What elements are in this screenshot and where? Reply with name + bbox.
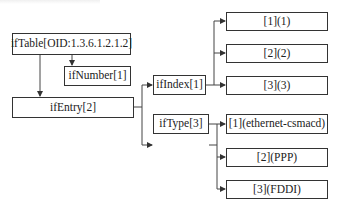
node-ifnumber: ifNumber[1] (64, 66, 131, 86)
node-index-value-1: [1](1) (226, 12, 328, 31)
node-type-value-1: [1](ethernet-csmacd) (226, 114, 328, 134)
node-index-value-1-label: [1](1) (264, 16, 291, 28)
node-ifnumber-label: ifNumber[1] (68, 70, 126, 82)
node-iftable-label: ifTable[OID:1.3.6.1.2.1.2] (11, 38, 132, 50)
node-type-value-3-label: [3](FDDI) (253, 184, 301, 196)
node-index-value-3: [3](3) (226, 76, 328, 95)
node-ifindex-label: ifIndex[1] (156, 79, 203, 91)
node-type-value-1-label: [1](ethernet-csmacd) (229, 118, 325, 130)
node-type-value-2: [2](PPP) (226, 148, 328, 167)
node-iftype-label: ifType[3] (159, 118, 202, 130)
node-index-value-3-label: [3](3) (264, 80, 291, 92)
node-iftable: ifTable[OID:1.3.6.1.2.1.2] (12, 33, 131, 55)
node-type-value-3: [3](FDDI) (226, 180, 328, 199)
node-ifentry-label: ifEntry[2] (50, 102, 96, 114)
node-iftype: ifType[3] (153, 114, 209, 134)
node-ifentry: ifEntry[2] (12, 97, 134, 118)
node-ifindex: ifIndex[1] (153, 75, 206, 95)
node-type-value-2-label: [2](PPP) (257, 152, 297, 164)
node-index-value-2-label: [2](2) (264, 48, 291, 60)
node-index-value-2: [2](2) (226, 44, 328, 63)
